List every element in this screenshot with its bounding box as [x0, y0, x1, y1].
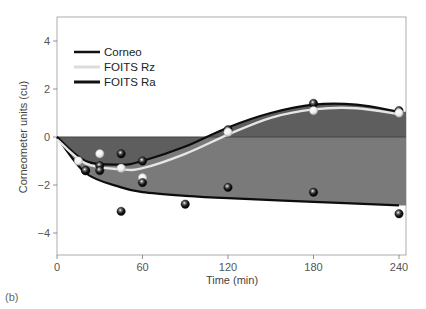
- data-point-foits-rz: [224, 128, 232, 136]
- data-point-foits-ra: [181, 200, 189, 208]
- x-tick-label: 120: [219, 261, 237, 273]
- data-point-foits-ra: [81, 166, 89, 174]
- x-axis-title: Time (min): [206, 274, 258, 286]
- data-point-foits-ra: [395, 210, 403, 218]
- x-tick-label: 60: [136, 261, 148, 273]
- data-point-foits-rz: [74, 157, 82, 165]
- panel-label: (b): [5, 291, 18, 303]
- y-tick-label: −2: [37, 179, 50, 191]
- legend-label-foits-ra: FOITS Ra: [104, 76, 156, 88]
- data-point-foits-ra: [224, 183, 232, 191]
- data-point-foits-ra: [96, 166, 104, 174]
- data-point-corneo: [117, 150, 125, 158]
- x-axis: 060120180240: [54, 255, 408, 273]
- legend-label-foits-rz: FOITS Rz: [104, 61, 155, 73]
- y-axis: 420−2−4: [37, 35, 57, 239]
- y-tick-label: −4: [37, 227, 50, 239]
- data-point-foits-ra: [117, 207, 125, 215]
- data-point-foits-rz: [96, 150, 104, 158]
- y-tick-label: 2: [44, 83, 50, 95]
- x-tick-label: 240: [390, 261, 408, 273]
- y-tick-label: 0: [44, 131, 50, 143]
- data-point-foits-rz: [117, 164, 125, 172]
- x-tick-label: 180: [304, 261, 322, 273]
- data-point-corneo: [138, 157, 146, 165]
- y-tick-label: 4: [44, 35, 50, 47]
- data-point-foits-ra: [309, 188, 317, 196]
- data-point-foits-rz: [395, 109, 403, 117]
- chart-canvas: 420−2−4 060120180240 Time (min) Corneome…: [0, 0, 426, 309]
- legend-label-corneo: Corneo: [104, 46, 142, 58]
- data-point-foits-ra: [138, 178, 146, 186]
- y-axis-title: Corneometer units (cu): [17, 81, 29, 194]
- data-point-foits-rz: [309, 106, 317, 114]
- x-tick-label: 0: [54, 261, 60, 273]
